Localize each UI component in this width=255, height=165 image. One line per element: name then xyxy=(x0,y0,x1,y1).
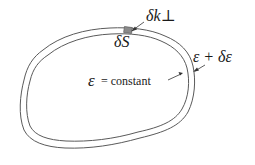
fermi-surface-diagram: δk⊥ δS ε + δε ε = constant xyxy=(0,0,255,165)
label-delta-k-perp: δk⊥ xyxy=(146,8,176,24)
label-epsilon-plus-delta-epsilon: ε + δε xyxy=(193,49,232,65)
arrow-delta-k-icon xyxy=(131,22,144,32)
arrow-constant-icon xyxy=(168,72,183,80)
label-epsilon-symbol: ε xyxy=(88,72,95,89)
label-constant: = constant xyxy=(101,75,151,87)
label-delta-s: δS xyxy=(114,34,129,50)
arrow-epsilon-plus-icon xyxy=(193,65,205,72)
